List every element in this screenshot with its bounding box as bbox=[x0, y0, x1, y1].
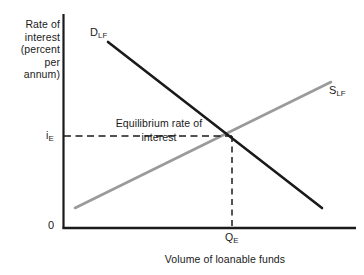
supply-curve-label-subscript: LF bbox=[336, 89, 345, 98]
x-axis-title: Volume of loanable funds bbox=[110, 253, 340, 266]
origin-label: 0 bbox=[48, 219, 54, 232]
demand-curve-label: DLF bbox=[90, 26, 107, 41]
equilibrium-quantity-tick-subscript: E bbox=[233, 236, 238, 245]
supply-curve-label: SLF bbox=[329, 84, 346, 99]
demand-curve-label-base: D bbox=[90, 26, 98, 38]
equilibrium-rate-tick-subscript: E bbox=[48, 134, 53, 143]
equilibrium-rate-tick-label: iE bbox=[46, 129, 54, 144]
equilibrium-annotation: Equilibrium rate of interest bbox=[96, 117, 222, 144]
demand-curve-label-subscript: LF bbox=[98, 31, 107, 40]
equilibrium-quantity-tick-label: QE bbox=[225, 231, 238, 246]
supply-curve-line bbox=[75, 82, 331, 208]
loanable-funds-chart: Rate of interest (percent per annum) Vol… bbox=[0, 0, 364, 275]
y-axis-title: Rate of interest (percent per annum) bbox=[4, 18, 60, 81]
